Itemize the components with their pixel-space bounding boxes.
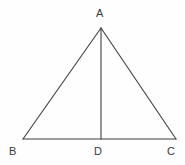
triangle-diagram-svg (0, 0, 185, 165)
segment-ac (101, 28, 176, 139)
vertex-label-c: C (167, 146, 175, 157)
vertex-label-b: B (9, 146, 17, 157)
vertex-label-d: D (94, 146, 102, 157)
vertex-label-a: A (96, 8, 104, 19)
segment-ab (23, 28, 101, 139)
geometry-figure: A B D C (0, 0, 185, 165)
